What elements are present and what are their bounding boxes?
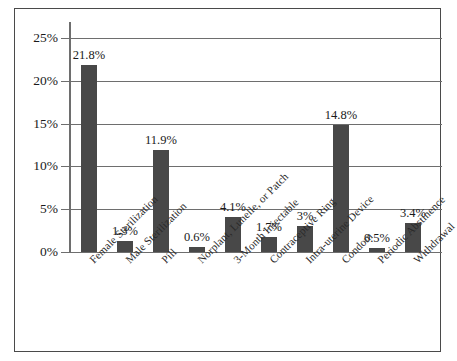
tick-mark bbox=[61, 38, 69, 39]
y-axis-tick-label: 25% bbox=[33, 30, 58, 46]
bar-value-label: 21.8% bbox=[73, 48, 105, 63]
gridline-25pct bbox=[69, 38, 442, 39]
chart-frame-border: 0%5%10%15%20%25% 21.8%1.3%11.9%0.6%4.1%1… bbox=[14, 8, 441, 352]
bar-value-label: 11.9% bbox=[145, 133, 177, 148]
gridline-20pct bbox=[69, 81, 442, 82]
gridline-10pct bbox=[69, 166, 442, 167]
tick-mark bbox=[61, 81, 69, 82]
tick-mark bbox=[61, 252, 69, 253]
tick-mark bbox=[61, 166, 69, 167]
y-axis-line bbox=[69, 22, 71, 253]
y-axis-tick-label: 0% bbox=[40, 244, 58, 260]
tick-mark bbox=[61, 209, 69, 210]
bar-0: 21.8% bbox=[81, 65, 97, 252]
y-axis-tick-label: 15% bbox=[33, 116, 58, 132]
bar-value-label: 14.8% bbox=[325, 108, 357, 123]
tick-mark bbox=[61, 124, 69, 125]
gridline-15pct bbox=[69, 124, 442, 125]
y-axis-tick-label: 10% bbox=[33, 158, 58, 174]
bar-value-label: 0.6% bbox=[184, 230, 210, 245]
y-axis-tick-label: 5% bbox=[40, 201, 58, 217]
y-axis-tick-label: 20% bbox=[33, 73, 58, 89]
